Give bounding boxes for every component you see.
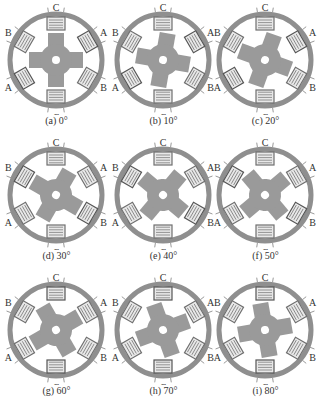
svg-text:B: B: [112, 297, 119, 308]
motor-panel: CCBAAB(i) 80°: [212, 270, 319, 405]
motor-panel: CCBAAB(h) 70°: [110, 270, 217, 405]
svg-text:A: A: [100, 162, 108, 173]
svg-text:B: B: [112, 27, 119, 38]
panel-caption: (g) 60°: [3, 385, 110, 396]
svg-text:B: B: [100, 352, 107, 363]
panel-caption: (a) 0°: [3, 115, 110, 126]
svg-text:C: C: [160, 137, 167, 148]
svg-text:A: A: [100, 27, 108, 38]
svg-text:A: A: [112, 352, 120, 363]
svg-text:A: A: [309, 297, 317, 308]
svg-text:B: B: [214, 27, 221, 38]
svg-text:C: C: [53, 272, 60, 283]
svg-text:C: C: [53, 2, 60, 13]
motor-panel: CCBAAB(f) 50°: [212, 135, 319, 270]
svg-text:B: B: [100, 217, 107, 228]
svg-text:A: A: [112, 82, 120, 93]
svg-text:B: B: [214, 297, 221, 308]
svg-text:A: A: [5, 82, 13, 93]
svg-text:B: B: [214, 162, 221, 173]
svg-text:A: A: [214, 82, 222, 93]
motor-panel: CCBAAB(e) 40°: [110, 135, 217, 270]
svg-text:C: C: [160, 272, 167, 283]
svg-text:B: B: [5, 27, 12, 38]
panel-caption: (f) 50°: [212, 250, 319, 261]
svg-text:A: A: [309, 162, 317, 173]
svg-text:C: C: [262, 137, 269, 148]
svg-text:B: B: [309, 82, 316, 93]
panel-caption: (i) 80°: [212, 385, 319, 396]
svg-text:A: A: [214, 217, 222, 228]
svg-text:B: B: [100, 82, 107, 93]
svg-text:B: B: [112, 162, 119, 173]
motor-panel: CCBAAB(d) 30°: [3, 135, 110, 270]
svg-text:A: A: [309, 27, 317, 38]
svg-text:B: B: [5, 162, 12, 173]
svg-text:A: A: [214, 352, 222, 363]
svg-text:B: B: [309, 217, 316, 228]
panel-caption: (b) 10°: [110, 115, 217, 126]
svg-text:C: C: [53, 137, 60, 148]
motor-panel: CCBAAB(g) 60°: [3, 270, 110, 405]
panel-caption: (e) 40°: [110, 250, 217, 261]
panel-caption: (d) 30°: [3, 250, 110, 261]
svg-text:B: B: [309, 352, 316, 363]
svg-text:A: A: [5, 352, 13, 363]
svg-text:C: C: [262, 2, 269, 13]
motor-panel: CCBAAB(c) 20°: [212, 0, 319, 135]
svg-text:C: C: [160, 2, 167, 13]
svg-text:C: C: [262, 272, 269, 283]
motor-panel: CCBAAB(b) 10°: [110, 0, 217, 135]
panel-caption: (c) 20°: [212, 115, 319, 126]
svg-text:A: A: [112, 217, 120, 228]
svg-text:B: B: [5, 297, 12, 308]
motor-panel: CCBAAB(a) 0°: [3, 0, 110, 135]
svg-text:A: A: [100, 297, 108, 308]
panel-caption: (h) 70°: [110, 385, 217, 396]
svg-text:A: A: [5, 217, 13, 228]
